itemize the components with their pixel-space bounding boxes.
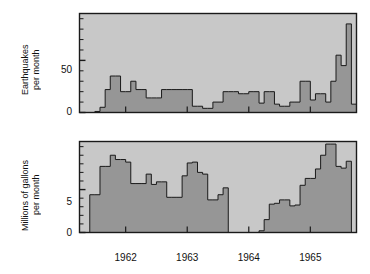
x-tick-label-1963: 1963	[167, 252, 207, 263]
panel-title-waste-fluid-injected: Waste fluid injected	[205, 150, 291, 161]
x-tick-label-1965: 1965	[290, 252, 330, 263]
y-axis-label-gallons: Millions of gallons per month	[20, 150, 44, 240]
panel-title-earthquake-frequency: Earthquake frequency	[170, 22, 268, 33]
figure-container: Earthquakes per month 50 0 Earthquake fr…	[0, 0, 370, 274]
y-tick-0-top: 0	[52, 106, 72, 117]
y-axis-label-earthquakes: Earthquakes per month	[20, 28, 44, 112]
series-earthquake-frequency	[80, 24, 357, 113]
y-tick-5-bottom: 5	[52, 196, 72, 207]
y-tick-0-bottom: 0	[52, 227, 72, 238]
x-tick-label-1964: 1964	[229, 252, 269, 263]
y-tick-50-top: 50	[52, 64, 72, 75]
x-tick-label-1962: 1962	[106, 252, 146, 263]
